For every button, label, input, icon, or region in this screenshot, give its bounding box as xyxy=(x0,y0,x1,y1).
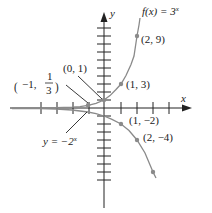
y-axis-label: y xyxy=(109,7,115,19)
exponential-graph-figure: x y f(x) = 3x y = −2x xyxy=(0,0,212,213)
f-function-label: f(x) = 3x xyxy=(142,5,180,18)
svg-text:): ) xyxy=(55,79,59,94)
g-function-label: y = −2x xyxy=(42,135,78,147)
label-2-neg4: (2, −4) xyxy=(143,131,173,144)
label-0-1: (0, 1) xyxy=(63,62,87,75)
point-3-neg8 xyxy=(151,170,155,174)
x-axis-arrow-icon xyxy=(182,105,192,112)
y-axis xyxy=(97,12,111,208)
x-axis-label: x xyxy=(180,92,186,104)
y-axis-arrow-icon xyxy=(101,12,108,22)
svg-text:1: 1 xyxy=(47,70,53,82)
point-1-neg2 xyxy=(119,122,123,126)
graph-canvas: x y f(x) = 3x y = −2x xyxy=(0,0,212,213)
point-0-1 xyxy=(102,98,106,102)
point-neg1-third xyxy=(86,103,90,107)
point-2-9 xyxy=(135,34,139,38)
label-neg1-third: ( −1, 1 3 ) xyxy=(14,70,59,96)
label-1-neg2: (1, −2) xyxy=(129,114,159,127)
leader-line-g-label xyxy=(66,112,87,133)
label-1-3: (1, 3) xyxy=(126,78,150,91)
label-2-9: (2, 9) xyxy=(141,33,165,46)
leader-line-neg1-third xyxy=(66,85,88,103)
svg-text:(: ( xyxy=(14,79,18,94)
svg-text:3: 3 xyxy=(46,84,52,96)
point-1-3 xyxy=(119,82,123,86)
point-2-neg4 xyxy=(135,138,139,142)
svg-text:−1,: −1, xyxy=(22,78,37,90)
leader-line-0-1 xyxy=(78,76,102,99)
